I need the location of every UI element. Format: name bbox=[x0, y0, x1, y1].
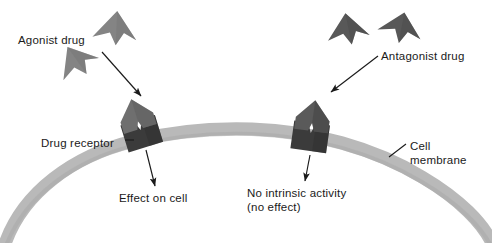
no-intrinsic-activity-line1: No intrinsic activity bbox=[247, 187, 346, 199]
agonist-drug-label: Agonist drug bbox=[18, 33, 85, 47]
drug-receptor-label: Drug receptor bbox=[41, 136, 114, 150]
antagonist-molecule-2 bbox=[376, 7, 426, 48]
antagonist-molecule-1 bbox=[325, 10, 371, 48]
diagram-canvas: Agonist drug Antagonist drug Drug recept… bbox=[0, 0, 492, 243]
effect-on-cell-label: Effect on cell bbox=[119, 191, 187, 205]
arrow-agonist-to-receptor bbox=[102, 52, 141, 96]
cell-membrane-label-line1: Cell bbox=[410, 140, 431, 152]
agonist-molecule-1 bbox=[92, 9, 139, 47]
antagonist-drug-label: Antagonist drug bbox=[381, 49, 465, 63]
cell-membrane-label: Cell membrane bbox=[410, 139, 467, 167]
cell-membrane-label-line2: membrane bbox=[410, 154, 467, 166]
drug-receptor-right bbox=[290, 98, 333, 154]
arrow-antagonist-to-receptor bbox=[331, 56, 378, 92]
no-intrinsic-activity-line2: (no effect) bbox=[247, 201, 301, 213]
leader-cell-membrane bbox=[389, 144, 406, 157]
no-intrinsic-activity-label: No intrinsic activity (no effect) bbox=[247, 186, 346, 214]
